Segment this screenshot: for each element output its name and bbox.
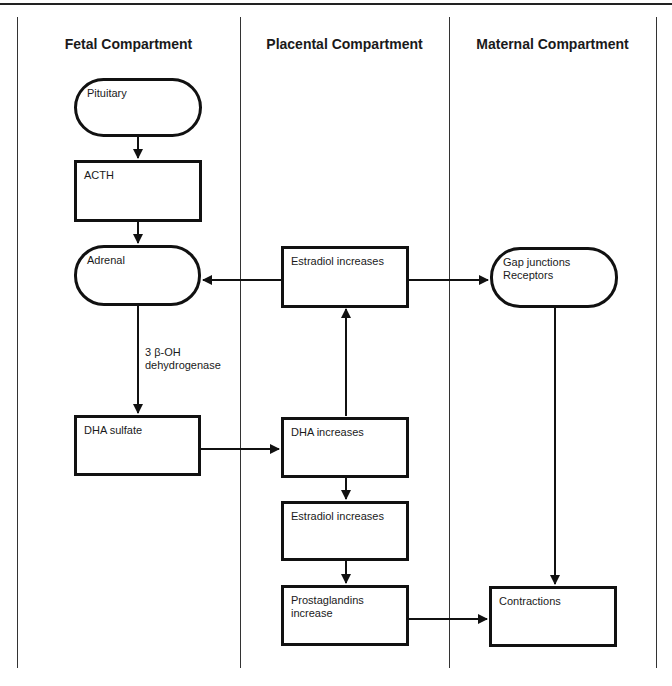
node-estradiol-increases-top: Estradiol increases bbox=[281, 246, 409, 308]
node-dha-increases: DHA increases bbox=[281, 417, 409, 478]
node-label: Pituitary bbox=[87, 87, 127, 99]
node-label: Prostaglandins increase bbox=[291, 594, 364, 619]
node-label: DHA increases bbox=[291, 426, 364, 438]
edge-label-line2: dehydrogenase bbox=[145, 359, 221, 372]
node-pituitary: Pituitary bbox=[74, 78, 202, 137]
node-label-line2: Receptors bbox=[503, 269, 615, 282]
node-acth: ACTH bbox=[74, 160, 202, 222]
node-label: Adrenal bbox=[87, 254, 125, 266]
node-estradiol-increases-mid: Estradiol increases bbox=[281, 501, 409, 561]
node-label: DHA sulfate bbox=[84, 424, 142, 436]
node-prostaglandins-increase: Prostaglandins increase bbox=[281, 585, 409, 646]
node-label: Contractions bbox=[499, 595, 561, 607]
node-contractions: Contractions bbox=[489, 586, 617, 647]
node-label: Estradiol increases bbox=[291, 510, 384, 522]
node-label-line1: Gap junctions bbox=[503, 256, 615, 269]
node-gap-junctions-receptors: Gap junctions Receptors bbox=[490, 247, 618, 308]
node-adrenal: Adrenal bbox=[74, 245, 201, 306]
node-dha-sulfate: DHA sulfate bbox=[74, 415, 201, 476]
node-label: ACTH bbox=[84, 169, 114, 181]
edge-label-line1: 3 β-OH bbox=[145, 346, 221, 359]
node-label: Estradiol increases bbox=[291, 255, 384, 267]
edge-label-dehydrogenase: 3 β-OH dehydrogenase bbox=[145, 346, 221, 372]
